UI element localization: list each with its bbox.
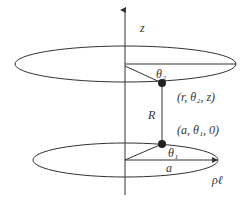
lower-point-label: (a, θ₁, 0) — [177, 124, 219, 136]
radius-label: a — [166, 162, 172, 174]
upper-point-label: (r, θ₂, z) — [177, 91, 215, 103]
z-axis-label: z — [140, 22, 145, 34]
lower-angle-label: θ₁ — [168, 147, 178, 159]
diagram-canvas — [0, 0, 246, 209]
upper-angle-label: θ₂ — [156, 68, 166, 80]
source-point — [158, 140, 166, 148]
distance-label: R — [148, 109, 155, 121]
cylindrical-coordinates-diagram: z θ₂ (r, θ₂, z) R (a, θ₁, 0) θ₁ a ρℓ — [0, 0, 246, 209]
charge-density-label: ρℓ — [212, 174, 223, 186]
